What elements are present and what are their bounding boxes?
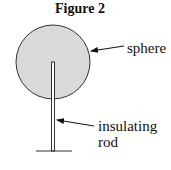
diagram-canvas — [0, 0, 171, 170]
rod-arrow — [57, 120, 94, 126]
sphere-arrow — [91, 46, 124, 51]
insulating-rod — [52, 62, 55, 151]
sphere-label: sphere — [127, 40, 166, 56]
rod-label-line1: insulating — [98, 118, 157, 134]
rod-label-line2: rod — [98, 134, 118, 150]
